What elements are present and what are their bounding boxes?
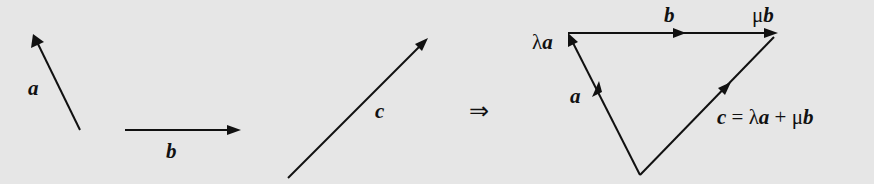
label-triangle-a: a <box>570 84 581 108</box>
vector-b <box>125 125 241 135</box>
label-mu-b: μb <box>752 3 774 27</box>
vector-c <box>288 38 428 178</box>
vector-a-arrowhead <box>31 34 44 48</box>
vector-diagram: a b c ⇒ λa b μb a c = λa + μb <box>0 0 874 184</box>
vector-c-shaft <box>288 46 420 178</box>
label-a: a <box>28 76 39 100</box>
label-lambda-a: λa <box>532 30 553 54</box>
vector-a-shaft <box>38 44 80 130</box>
implies-symbol: ⇒ <box>469 98 489 124</box>
vector-b-arrowhead <box>227 125 241 135</box>
triangle-diagram <box>568 28 778 175</box>
triangle-b-midarrow <box>673 28 686 38</box>
label-b: b <box>166 139 177 163</box>
equation-c: c = λa + μb <box>717 105 813 129</box>
label-c: c <box>375 99 385 123</box>
triangle-lambda-a-side <box>570 37 640 175</box>
triangle-mu-b-arrowhead <box>764 28 778 38</box>
label-triangle-b: b <box>664 3 675 27</box>
